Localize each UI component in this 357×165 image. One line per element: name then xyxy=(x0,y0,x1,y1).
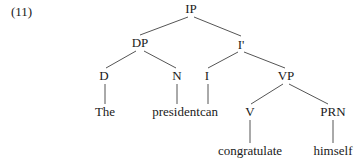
tree-edge-dp-n xyxy=(144,51,176,68)
tree-node-vp: VP xyxy=(278,69,295,83)
tree-edge-dp-d xyxy=(106,51,136,68)
tree-edge-ibar-i xyxy=(208,52,238,68)
tree-node-president: president xyxy=(152,105,200,119)
tree-edge-vp-prn xyxy=(289,84,328,104)
tree-node-the: The xyxy=(95,105,115,119)
tree-node-himself: himself xyxy=(314,144,353,158)
syntax-tree: IPDPI'DNIVPThepresidentcanVPRNcongratula… xyxy=(0,0,357,165)
tree-edge-ip-ibar xyxy=(194,17,241,36)
tree-node-ibar: I' xyxy=(238,38,245,52)
tree-edge-ip-dp xyxy=(140,17,188,35)
tree-node-n: N xyxy=(172,69,181,83)
tree-node-ip: IP xyxy=(185,2,197,16)
tree-edge-vp-v xyxy=(251,84,283,104)
tree-node-prn: PRN xyxy=(320,105,345,119)
tree-edge-ibar-vp xyxy=(244,52,285,68)
tree-node-congratulate: congratulate xyxy=(218,144,282,158)
tree-node-can: can xyxy=(200,105,218,119)
example-number: (11) xyxy=(11,5,32,19)
tree-node-dp: DP xyxy=(132,36,149,50)
tree-node-v: V xyxy=(245,105,254,119)
tree-node-i: I xyxy=(205,69,209,83)
tree-node-d: D xyxy=(99,69,108,83)
